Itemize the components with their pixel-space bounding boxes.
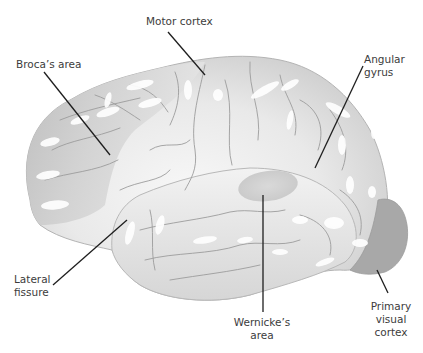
label-lateral-line2: fissure: [14, 286, 51, 299]
label-visual-line2: visual: [366, 313, 416, 326]
label-primary-visual-cortex: Primary visual cortex: [366, 300, 416, 339]
label-broca-text: Broca’s area: [16, 58, 81, 70]
label-angular-line2: gyrus: [364, 66, 405, 79]
label-wernickes-area: Wernicke’s area: [232, 316, 292, 342]
label-motor-cortex: Motor cortex: [146, 15, 213, 28]
label-angular-line1: Angular: [364, 53, 405, 66]
brain-illustration: [0, 0, 423, 353]
label-brocas-area: Broca’s area: [16, 58, 81, 71]
label-lateral-line1: Lateral: [14, 273, 51, 286]
label-wernicke-line1: Wernicke’s: [232, 316, 292, 329]
label-angular-gyrus: Angular gyrus: [364, 53, 405, 79]
label-wernicke-line2: area: [232, 329, 292, 342]
label-visual-line1: Primary: [366, 300, 416, 313]
label-motor-text: Motor cortex: [146, 15, 213, 27]
label-visual-line3: cortex: [366, 326, 416, 339]
label-lateral-fissure: Lateral fissure: [14, 273, 51, 299]
leader-line-visual: [377, 270, 388, 293]
